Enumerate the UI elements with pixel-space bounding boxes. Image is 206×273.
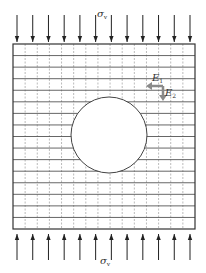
down-arrow-icon bbox=[125, 36, 129, 42]
circular-hole bbox=[71, 97, 147, 173]
bottom-stress-label: σv bbox=[100, 255, 111, 267]
down-arrow-icon bbox=[188, 36, 192, 42]
up-arrow-icon bbox=[141, 234, 145, 240]
up-arrow-icon bbox=[109, 234, 113, 240]
down-arrow-icon bbox=[141, 36, 145, 42]
down-arrow-icon bbox=[93, 36, 97, 42]
e1-arrowhead-icon bbox=[146, 82, 152, 90]
up-arrow-icon bbox=[78, 234, 82, 240]
down-arrow-icon bbox=[62, 36, 66, 42]
up-arrow-icon bbox=[93, 234, 97, 240]
principal-direction-arrows bbox=[146, 82, 167, 101]
down-arrow-icon bbox=[109, 36, 113, 42]
up-arrow-icon bbox=[46, 234, 50, 240]
up-arrow-icon bbox=[62, 234, 66, 240]
down-arrow-icon bbox=[156, 36, 160, 42]
up-arrow-icon bbox=[15, 234, 19, 240]
down-arrow-icon bbox=[46, 36, 50, 42]
diagram-canvas: E1 E2 σv σv bbox=[0, 0, 206, 273]
down-arrow-icon bbox=[78, 36, 82, 42]
up-arrow-icon bbox=[188, 234, 192, 240]
up-arrow-icon bbox=[156, 234, 160, 240]
e1-label: E1 bbox=[151, 72, 163, 84]
down-arrow-icon bbox=[172, 36, 176, 42]
top-stress-label: σv bbox=[97, 8, 108, 20]
down-arrow-icon bbox=[31, 36, 35, 42]
e2-label: E2 bbox=[164, 87, 176, 99]
down-arrow-icon bbox=[15, 36, 19, 42]
up-arrow-icon bbox=[172, 234, 176, 240]
up-arrow-icon bbox=[31, 234, 35, 240]
up-arrow-icon bbox=[125, 234, 129, 240]
